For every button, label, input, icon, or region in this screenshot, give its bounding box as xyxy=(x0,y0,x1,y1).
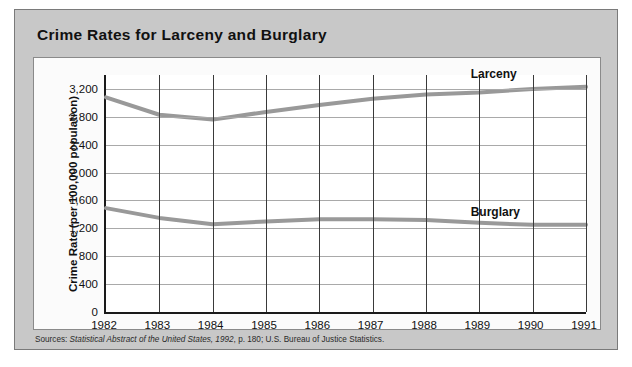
x-tick-label: 1987 xyxy=(358,319,384,331)
x-tick-label: 1982 xyxy=(91,319,117,331)
y-tick-label: 2,400 xyxy=(69,139,98,151)
vertical-gridline xyxy=(319,75,320,312)
horizontal-gridline xyxy=(106,117,586,118)
horizontal-gridline xyxy=(106,173,586,174)
chart-panel: Crime Rate (per 100,000 population) 0400… xyxy=(33,57,601,330)
source-rest: , p. 180; U.S. Bureau of Justice Statist… xyxy=(234,335,385,344)
y-tick-label: 3,200 xyxy=(69,83,98,95)
horizontal-gridline xyxy=(106,228,586,229)
series-label-burglary: Burglary xyxy=(471,205,520,219)
y-tick-label: 1,200 xyxy=(69,222,98,234)
x-tick-label: 1989 xyxy=(465,319,491,331)
vertical-gridline xyxy=(479,75,480,312)
chart-figure: Crime Rates for Larceny and Burglary Cri… xyxy=(14,9,618,350)
horizontal-gridline xyxy=(106,256,586,257)
chart-title: Crime Rates for Larceny and Burglary xyxy=(37,26,327,44)
plot-area: LarcenyBurglary xyxy=(104,75,586,314)
horizontal-gridline xyxy=(106,200,586,201)
vertical-gridline xyxy=(213,75,214,312)
y-tick-label: 2,000 xyxy=(69,167,98,179)
y-tick-label: 400 xyxy=(79,278,98,290)
x-tick-label: 1990 xyxy=(518,319,544,331)
x-tick-label: 1986 xyxy=(305,319,331,331)
horizontal-gridline xyxy=(106,89,586,90)
x-tick-label: 1991 xyxy=(571,319,597,331)
y-tick-label: 0 xyxy=(92,306,98,318)
series-lines xyxy=(106,75,586,312)
horizontal-gridline xyxy=(106,284,586,285)
source-prefix: Sources: xyxy=(35,335,67,344)
vertical-gridline xyxy=(426,75,427,312)
vertical-gridline xyxy=(373,75,374,312)
vertical-gridline xyxy=(586,75,587,312)
x-tick-label: 1988 xyxy=(411,319,437,331)
y-tick-label: 2,800 xyxy=(69,111,98,123)
vertical-gridline xyxy=(533,75,534,312)
x-tick-label: 1983 xyxy=(145,319,171,331)
y-tick-label: 1,600 xyxy=(69,194,98,206)
y-tick-label: 800 xyxy=(79,250,98,262)
source-note: Sources: Statistical Abstract of the Uni… xyxy=(35,335,384,344)
vertical-gridline xyxy=(266,75,267,312)
series-label-larceny: Larceny xyxy=(471,67,517,81)
vertical-gridline xyxy=(159,75,160,312)
x-tick-label: 1985 xyxy=(251,319,277,331)
horizontal-gridline xyxy=(106,145,586,146)
source-citation: Statistical Abstract of the United State… xyxy=(70,335,234,344)
x-axis-tick-labels: 1982198319841985198619871988198919901991 xyxy=(104,314,584,334)
series-line-larceny xyxy=(106,87,586,120)
x-tick-label: 1984 xyxy=(198,319,224,331)
y-axis-tick-labels: 04008001,2001,6002,0002,4002,8003,200 xyxy=(48,75,98,312)
